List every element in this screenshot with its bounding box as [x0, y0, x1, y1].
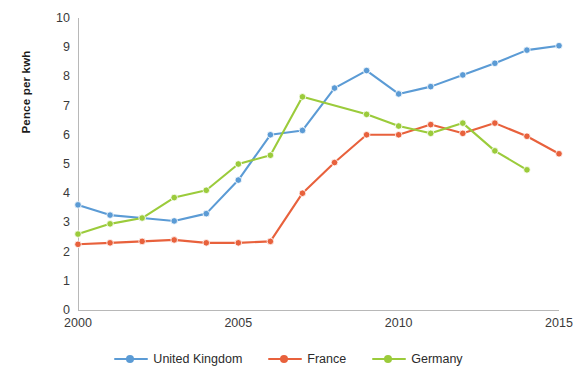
data-point	[171, 218, 178, 225]
data-point	[331, 159, 338, 166]
data-point	[171, 194, 178, 201]
data-point	[203, 187, 210, 194]
data-point	[363, 111, 370, 118]
data-point	[492, 60, 499, 67]
data-point	[460, 130, 467, 137]
legend-swatch-icon	[268, 353, 302, 365]
data-point	[107, 212, 114, 219]
data-point	[107, 221, 114, 228]
data-point	[427, 121, 434, 128]
data-point	[267, 238, 274, 245]
line-chart: Pence per kwh 109876543210 2000200520102…	[0, 0, 577, 381]
data-point	[427, 83, 434, 90]
data-point	[139, 238, 146, 245]
data-point	[267, 132, 274, 139]
data-point	[203, 210, 210, 217]
data-point	[107, 240, 114, 247]
legend-item[interactable]: Germany	[372, 352, 462, 366]
data-point	[235, 177, 242, 184]
data-point	[171, 237, 178, 244]
series-line	[78, 97, 527, 234]
x-tick-label: 2010	[374, 316, 424, 330]
legend-item[interactable]: United Kingdom	[114, 352, 242, 366]
data-point	[75, 231, 82, 238]
data-point	[235, 240, 242, 247]
data-point	[363, 67, 370, 74]
data-point	[203, 240, 210, 247]
chart-legend: United KingdomFranceGermany	[0, 352, 577, 366]
data-point	[492, 120, 499, 127]
x-tick-label: 2000	[53, 316, 103, 330]
data-point	[395, 123, 402, 130]
data-point	[395, 132, 402, 139]
legend-swatch-icon	[114, 353, 148, 365]
data-point	[460, 72, 467, 79]
series-line	[78, 46, 559, 221]
data-point	[524, 133, 531, 140]
series-line	[78, 123, 559, 244]
legend-label: Germany	[411, 352, 462, 366]
data-point	[556, 42, 563, 49]
legend-swatch-icon	[372, 353, 406, 365]
data-point	[395, 91, 402, 98]
series-lines	[62, 10, 562, 318]
data-point	[267, 152, 274, 159]
plot-area: 109876543210 2000200520102015	[62, 10, 562, 318]
data-point	[139, 215, 146, 222]
data-point	[235, 161, 242, 168]
x-tick-label: 2015	[534, 316, 577, 330]
data-point	[75, 241, 82, 248]
data-point	[75, 202, 82, 209]
data-point	[299, 94, 306, 101]
legend-item[interactable]: France	[268, 352, 346, 366]
data-point	[524, 47, 531, 54]
legend-label: United Kingdom	[153, 352, 242, 366]
data-point	[363, 132, 370, 139]
data-point	[427, 130, 434, 137]
data-point	[460, 120, 467, 127]
data-point	[299, 127, 306, 134]
data-point	[524, 167, 531, 174]
y-axis-title: Pence per kwh	[20, 22, 32, 162]
x-tick-label: 2005	[213, 316, 263, 330]
data-point	[556, 150, 563, 157]
data-point	[299, 190, 306, 197]
legend-label: France	[307, 352, 346, 366]
data-point	[331, 85, 338, 92]
data-point	[492, 148, 499, 155]
